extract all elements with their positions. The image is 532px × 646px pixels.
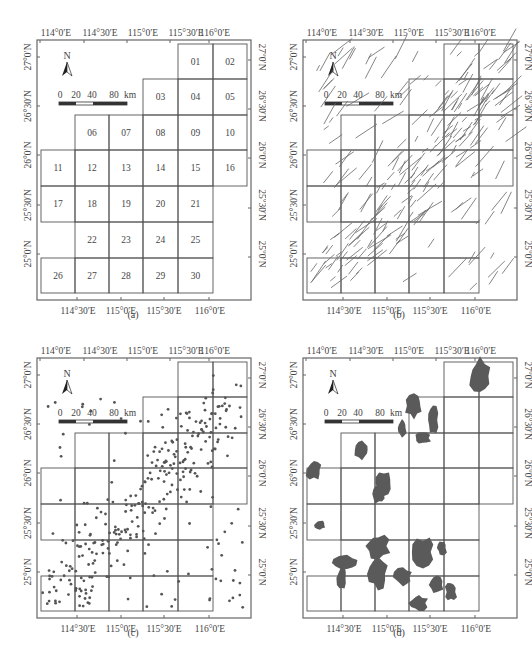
data-point xyxy=(74,570,77,573)
data-point xyxy=(48,591,51,594)
grid-cell-label: 30 xyxy=(191,271,201,281)
fault-line xyxy=(338,265,343,273)
data-point xyxy=(204,397,207,400)
data-point xyxy=(195,420,198,423)
data-point xyxy=(129,533,132,536)
data-point xyxy=(206,546,209,549)
data-point xyxy=(180,496,183,499)
data-point xyxy=(84,597,87,600)
north-arrow-icon xyxy=(67,380,72,394)
grid-cell-label: 20 xyxy=(156,199,166,209)
data-point xyxy=(217,405,220,408)
data-point xyxy=(63,574,66,577)
map-a: 114°0′E114°30′E115°0′E115°30′E116°0′E114… xyxy=(0,0,266,320)
data-point xyxy=(131,520,134,523)
fault-line xyxy=(366,53,371,64)
fault-line xyxy=(388,150,405,166)
grid-cell xyxy=(109,468,143,504)
data-point xyxy=(125,503,128,506)
scale-bar-seg xyxy=(325,102,342,105)
data-point xyxy=(179,479,182,482)
grid-cell xyxy=(307,150,341,186)
data-point xyxy=(141,504,144,507)
fault-line xyxy=(447,112,461,125)
data-point xyxy=(169,464,172,467)
fault-line xyxy=(330,233,339,239)
grid-cell xyxy=(178,576,213,611)
data-point xyxy=(214,412,217,415)
data-point xyxy=(83,502,86,505)
data-point xyxy=(205,425,208,428)
fault-line xyxy=(324,254,335,264)
data-point xyxy=(234,427,237,430)
grid-cell xyxy=(479,433,513,468)
fault-line xyxy=(359,164,372,179)
data-point xyxy=(55,589,58,592)
fault-line xyxy=(506,127,527,142)
fault-line xyxy=(452,145,457,154)
grid-cell xyxy=(213,397,247,433)
data-point xyxy=(88,423,91,426)
data-point xyxy=(115,543,118,546)
scale-bar-seg xyxy=(93,420,127,423)
fault-line xyxy=(427,118,434,132)
data-point xyxy=(228,405,231,408)
fault-line xyxy=(412,51,418,62)
grid-cell xyxy=(178,397,213,433)
data-point xyxy=(79,545,82,548)
fault-line xyxy=(338,192,348,210)
data-point xyxy=(147,477,150,480)
grid-cell xyxy=(213,468,247,504)
data-point xyxy=(114,529,117,532)
data-point xyxy=(209,418,212,421)
data-point xyxy=(223,530,226,533)
fault-line xyxy=(324,126,329,130)
data-point xyxy=(139,488,142,491)
data-point xyxy=(113,401,116,404)
data-point xyxy=(129,495,132,498)
fault-line xyxy=(396,219,409,241)
data-point xyxy=(215,427,218,430)
grid-cell-label: 12 xyxy=(87,163,97,173)
data-point xyxy=(47,405,50,408)
panel-d: 114°0′E114°30′E115°0′E115°30′E116°0′E114… xyxy=(266,318,532,638)
grid-cell xyxy=(41,468,75,504)
region-polygon xyxy=(428,406,438,434)
fault-line xyxy=(329,135,342,144)
scale-tick-label: 80 xyxy=(375,90,385,100)
data-point xyxy=(141,485,144,488)
data-point xyxy=(71,567,74,570)
data-point xyxy=(67,593,70,596)
data-point xyxy=(108,552,111,555)
data-point xyxy=(51,575,54,578)
lat-label-left: 25°0′N xyxy=(23,240,33,267)
data-point xyxy=(144,502,147,505)
data-point xyxy=(232,579,235,582)
lat-label-left: 27°0′N xyxy=(289,43,299,70)
data-point xyxy=(96,507,99,510)
data-point xyxy=(225,408,228,411)
data-point xyxy=(86,502,89,505)
fault-line xyxy=(394,210,401,217)
data-point xyxy=(239,406,242,409)
lat-label-right: 26°0′N xyxy=(523,460,532,487)
fault-line xyxy=(387,172,394,180)
data-point xyxy=(82,579,85,582)
data-point xyxy=(91,585,94,588)
data-point xyxy=(52,532,55,535)
fault-line xyxy=(323,171,332,183)
data-point xyxy=(180,425,183,428)
grid-cell xyxy=(307,576,341,611)
data-point xyxy=(164,460,167,463)
lat-label-left: 25°30′N xyxy=(23,189,33,221)
lat-label-left: 26°0′N xyxy=(23,459,33,486)
data-point xyxy=(160,413,163,416)
fault-line xyxy=(324,78,335,88)
scale-tick-label: 40 xyxy=(87,90,97,100)
lon-label-top: 116°0′E xyxy=(200,28,231,38)
data-point xyxy=(224,426,227,429)
data-point xyxy=(211,568,214,571)
data-point xyxy=(120,417,123,420)
fault-line xyxy=(410,200,416,207)
data-point xyxy=(171,441,174,444)
